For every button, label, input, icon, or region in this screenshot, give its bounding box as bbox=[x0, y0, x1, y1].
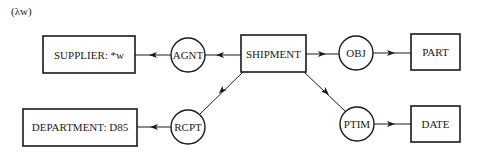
edge-agnt-supplier bbox=[135, 52, 171, 58]
relation-rcpt-label: RCPT bbox=[174, 121, 202, 133]
graph-canvas: SUPPLIER: *w SHIPMENT PART DEPARTMENT: D… bbox=[0, 0, 479, 154]
relation-obj-label: OBJ bbox=[346, 47, 366, 59]
edge-shipment-rcpt bbox=[200, 72, 243, 114]
edge-ptim-date bbox=[374, 121, 411, 127]
concept-shipment: SHIPMENT bbox=[241, 35, 306, 72]
edge-shipment-obj bbox=[306, 51, 339, 57]
edge-shipment-ptim bbox=[304, 72, 345, 111]
concept-shipment-label: SHIPMENT bbox=[246, 48, 301, 60]
concept-supplier: SUPPLIER: *w bbox=[43, 36, 135, 73]
concept-supplier-label: SUPPLIER: *w bbox=[54, 49, 124, 61]
concept-part-label: PART bbox=[422, 46, 449, 58]
relation-ptim: PTIM bbox=[340, 107, 374, 141]
relation-obj: OBJ bbox=[339, 36, 373, 70]
edge-rcpt-department bbox=[137, 124, 171, 130]
lambda-label: (λw) bbox=[11, 5, 32, 17]
concept-department: DEPARTMENT: D85 bbox=[23, 109, 137, 146]
concept-date: DATE bbox=[411, 106, 460, 142]
concept-date-label: DATE bbox=[421, 118, 449, 130]
relation-ptim-label: PTIM bbox=[344, 118, 371, 130]
relation-agnt: AGNT bbox=[171, 38, 205, 72]
relation-agnt-label: AGNT bbox=[173, 49, 204, 61]
concept-department-label: DEPARTMENT: D85 bbox=[32, 121, 129, 133]
relation-rcpt: RCPT bbox=[171, 110, 205, 144]
edge-obj-part bbox=[373, 50, 411, 56]
conceptual-graph: (λw) bbox=[0, 0, 479, 154]
edge-shipment-agnt bbox=[205, 52, 241, 58]
concept-part: PART bbox=[411, 34, 460, 70]
